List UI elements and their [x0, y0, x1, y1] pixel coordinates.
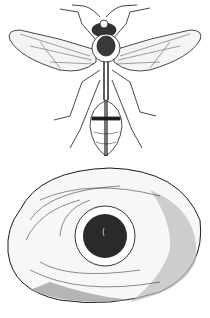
nest-entrance-hole: [83, 214, 127, 258]
illustration: [0, 0, 210, 318]
wasp: [9, 5, 201, 156]
nest: [8, 168, 201, 303]
